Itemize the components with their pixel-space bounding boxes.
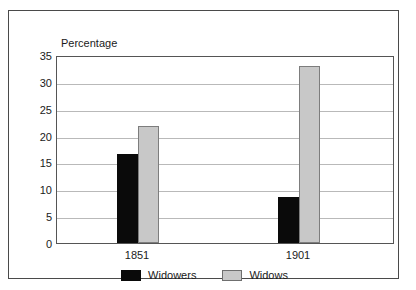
legend-swatch-widowers — [121, 270, 141, 281]
bar-1851-widows — [138, 126, 159, 243]
x-tick-label-1851: 1851 — [125, 249, 149, 261]
y-tick-label: 15 — [22, 157, 52, 169]
y-tick-label: 25 — [22, 104, 52, 116]
chart-legend: Widowers Widows — [9, 269, 400, 281]
plot-area — [56, 56, 394, 244]
y-tick-label: 5 — [22, 211, 52, 223]
legend-label-widows: Widows — [249, 269, 288, 281]
gridline — [57, 218, 393, 219]
y-tick-label: 10 — [22, 184, 52, 196]
legend-swatch-widows — [222, 270, 242, 281]
legend-label-widowers: Widowers — [148, 269, 196, 281]
bar-1901-widows — [299, 66, 320, 243]
x-tick-label-1901: 1901 — [286, 249, 310, 261]
gridline — [57, 111, 393, 112]
legend-item-widowers: Widowers — [121, 269, 196, 281]
gridline — [57, 138, 393, 139]
y-axis-tick-labels: 35 30 25 20 15 10 5 0 — [19, 56, 52, 244]
y-axis-title: Percentage — [61, 37, 117, 49]
legend-item-widows: Widows — [222, 269, 288, 281]
y-tick-label: 20 — [22, 131, 52, 143]
y-tick-label: 0 — [22, 238, 52, 250]
bar-1901-widowers — [278, 197, 299, 243]
gridline — [57, 164, 393, 165]
chart-frame: Percentage 35 30 25 20 15 10 5 0 1851 19… — [8, 10, 399, 279]
y-tick-label: 35 — [22, 50, 52, 62]
bar-1851-widowers — [117, 154, 138, 243]
gridline — [57, 84, 393, 85]
y-tick-label: 30 — [22, 77, 52, 89]
gridline — [57, 191, 393, 192]
